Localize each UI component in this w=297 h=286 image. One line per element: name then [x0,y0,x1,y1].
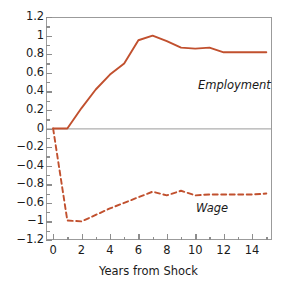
chart-screenshot: Employment Wage 1.210.80.60.40.20−0.2−0.… [0,0,297,286]
y-tick-label: 0.4 [4,85,44,97]
y-tick-label: −1 [4,215,44,227]
y-tick-label: −0.2 [4,141,44,153]
y-tick-label: 0.6 [4,67,44,79]
y-tick-label: −1.2 [4,234,44,246]
y-tick-label: −0.8 [4,178,44,190]
y-tick-label: 0.8 [4,48,44,60]
x-tick-label: 2 [67,245,97,257]
y-tick-label: 0 [4,123,44,135]
x-tick-label: 0 [38,245,68,257]
x-tick-label: 6 [123,245,153,257]
y-tick-label: 1.2 [4,11,44,23]
y-tick-label: −0.4 [4,160,44,172]
x-tick-label: 4 [95,245,125,257]
x-tick-label: 8 [152,245,182,257]
series-curves [46,17,272,240]
x-tick-label: 12 [209,245,239,257]
x-tick-label: 10 [180,245,210,257]
y-tick-label: 0.2 [4,104,44,116]
series-line-wage [53,129,266,222]
series-label-employment: Employment [198,78,271,92]
y-tick-label: 1 [4,30,44,42]
x-axis-title: Years from Shock [0,264,297,278]
y-tick-label: −0.6 [4,197,44,209]
series-label-wage: Wage [196,201,228,215]
y-tick [46,240,52,241]
plot-area: Employment Wage [46,17,272,240]
x-tick-label: 14 [237,245,267,257]
